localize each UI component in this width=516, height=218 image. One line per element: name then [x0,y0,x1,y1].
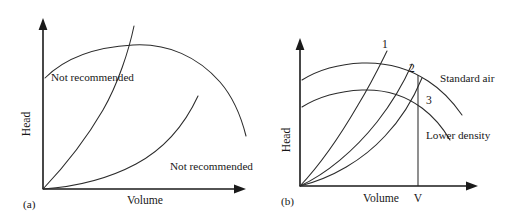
panel-a-system-curve-flat [43,96,198,189]
panel-a-system-curve-steep [43,26,134,189]
panel-b-y-axis [296,38,305,186]
panel-b-y-axis-label: Head [280,128,293,153]
panel-a-annotation-upper: Not recommended [51,71,134,83]
panel-a-x-axis-arrow [234,185,246,194]
panel-b-x-axis-label: Volume [363,192,399,205]
panel-a: Head Volume Not recommended Not recommen… [20,18,253,211]
panel-a-y-axis-arrow [39,18,48,30]
panel-a-tag: (a) [23,198,36,211]
panel-b: Head Volume V 1 2 3 Standard air Lower d… [280,38,495,208]
panel-b-curve-label-2: 2 [409,62,415,75]
panel-a-fan-head-curve [45,45,246,136]
panel-b-standard-air-label: Standard air [440,72,495,84]
fan-system-curves-figure: Head Volume Not recommended Not recommen… [0,0,516,218]
panel-b-x-axis [300,182,478,191]
panel-a-x-axis-label: Volume [127,194,163,207]
panel-a-x-axis [43,185,246,194]
panel-b-tag: (b) [281,195,294,208]
panel-b-standard-air-curve [302,63,462,115]
panel-b-system-curve-1 [300,51,387,186]
panel-a-y-axis-label: Head [20,112,33,137]
panel-a-y-axis [39,18,48,189]
panel-b-lower-density-label: Lower density [426,129,491,141]
panel-a-annotation-lower: Not recommended [170,160,253,172]
panel-b-x-axis-arrow [466,182,478,191]
panel-b-system-curve-3 [300,78,422,186]
panel-b-volume-tick-label: V [414,192,423,205]
panel-b-y-axis-arrow [296,38,305,50]
panel-b-curve-label-1: 1 [382,38,388,51]
figure-container: Head Volume Not recommended Not recommen… [0,0,516,218]
panel-b-curve-label-3: 3 [426,94,432,107]
